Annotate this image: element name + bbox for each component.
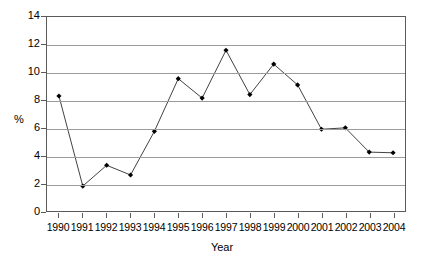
y-tick-mark <box>41 16 46 17</box>
x-tick-mark <box>202 213 203 218</box>
x-tick-mark <box>106 213 107 218</box>
x-tick-mark <box>178 213 179 218</box>
data-point-marker <box>223 48 228 53</box>
data-series-line <box>47 17 405 211</box>
data-point-marker <box>390 150 395 155</box>
x-tick-mark <box>154 213 155 218</box>
y-tick-mark <box>41 100 46 101</box>
gridline <box>47 101 405 102</box>
gridline <box>47 73 405 74</box>
y-tick-mark <box>41 72 46 73</box>
x-tick-mark <box>370 213 371 218</box>
x-tick-mark <box>394 213 395 218</box>
y-tick-label: 0 <box>6 206 40 217</box>
y-tick-label: 8 <box>6 94 40 105</box>
y-tick-mark <box>41 212 46 213</box>
x-tick-mark <box>298 213 299 218</box>
y-tick-mark <box>41 44 46 45</box>
y-tick-mark <box>41 128 46 129</box>
series-line <box>59 50 393 186</box>
y-tick-label: 4 <box>6 150 40 161</box>
x-tick-mark <box>130 213 131 218</box>
y-tick-label: 12 <box>6 38 40 49</box>
x-axis-title: Year <box>0 241 444 253</box>
y-tick-label: 10 <box>6 66 40 77</box>
y-tick-label: 2 <box>6 178 40 189</box>
x-tick-mark <box>58 213 59 218</box>
x-tick-mark <box>274 213 275 218</box>
y-tick-mark <box>41 184 46 185</box>
x-tick-mark <box>322 213 323 218</box>
y-axis-title: % <box>14 114 24 125</box>
x-tick-mark <box>250 213 251 218</box>
gridline <box>47 157 405 158</box>
data-point-marker <box>128 172 133 177</box>
x-tick-mark <box>82 213 83 218</box>
data-point-marker <box>56 93 61 98</box>
gridline <box>47 45 405 46</box>
x-tick-label: 2004 <box>374 221 414 233</box>
plot-area <box>46 16 406 212</box>
y-tick-label: 14 <box>6 10 40 21</box>
x-tick-mark <box>226 213 227 218</box>
x-axis-tick-labels: 1990199119921993199419951996199719981999… <box>0 221 444 235</box>
line-chart-figure: 02468101214 % 19901991199219931994199519… <box>0 0 444 262</box>
x-tick-mark <box>346 213 347 218</box>
y-tick-mark <box>41 156 46 157</box>
gridline <box>47 129 405 130</box>
gridline <box>47 185 405 186</box>
